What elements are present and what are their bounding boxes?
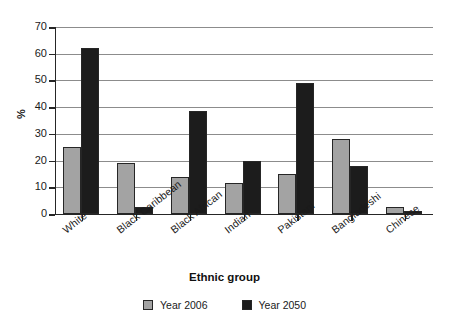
gridline [56, 27, 433, 28]
y-tick-label: 0 [17, 207, 47, 219]
legend-item: Year 2050 [242, 299, 307, 311]
bar [332, 139, 350, 214]
legend-item: Year 2006 [143, 299, 208, 311]
x-axis-title: Ethnic group [0, 271, 449, 283]
y-tick-mark [49, 214, 55, 216]
gridline [56, 107, 433, 108]
y-tick-mark [49, 54, 55, 56]
legend-swatch-icon [143, 300, 153, 310]
y-tick-mark [49, 27, 55, 29]
bar [296, 83, 314, 214]
y-tick-label: 20 [17, 154, 47, 166]
y-tick-label: 30 [17, 127, 47, 139]
y-tick-mark [49, 107, 55, 109]
gridline [56, 54, 433, 55]
y-tick-mark [49, 80, 55, 82]
bar [225, 183, 243, 214]
bar-chart: % 010203040506070 WhiteBlack CaribbeanBl… [0, 0, 449, 330]
bar [117, 163, 135, 214]
y-tick-mark [49, 187, 55, 189]
plot-area [55, 27, 433, 215]
legend-swatch-icon [242, 300, 252, 310]
y-tick-mark [49, 161, 55, 163]
bar [81, 48, 99, 214]
legend-label: Year 2006 [160, 299, 208, 311]
bar [243, 161, 261, 214]
bar [63, 147, 81, 214]
gridline [56, 80, 433, 81]
chart-legend: Year 2006Year 2050 [0, 299, 449, 311]
legend-label: Year 2050 [259, 299, 307, 311]
gridline [56, 134, 433, 135]
bar [278, 174, 296, 214]
y-tick-label: 40 [17, 100, 47, 112]
y-tick-label: 50 [17, 73, 47, 85]
y-tick-label: 10 [17, 180, 47, 192]
y-tick-label: 60 [17, 47, 47, 59]
y-tick-label: 70 [17, 20, 47, 32]
y-tick-mark [49, 134, 55, 136]
